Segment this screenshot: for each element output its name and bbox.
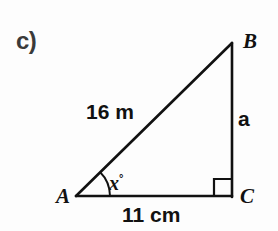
geometry-figure: c) A B C 16 m 11 cm a x° (0, 0, 278, 231)
vertex-label-a: A (56, 186, 70, 207)
degree-symbol: ° (119, 172, 123, 184)
angle-label-x: x° (109, 173, 123, 193)
side-length-base: 11 cm (122, 204, 180, 225)
side-length-opposite: a (238, 108, 250, 129)
side-length-hypotenuse: 16 m (86, 101, 134, 122)
vertex-label-b: B (243, 31, 257, 52)
angle-variable: x (109, 172, 119, 194)
vertex-label-c: C (240, 186, 254, 207)
triangle-diagram (0, 0, 278, 231)
part-label: c) (16, 29, 36, 53)
right-angle-marker-icon (214, 179, 231, 196)
